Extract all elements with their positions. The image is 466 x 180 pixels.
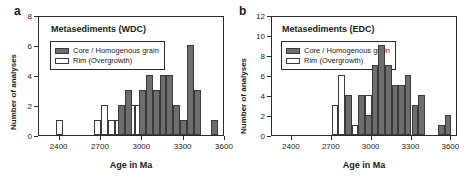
- y-axis-tick-label: 8: [247, 52, 265, 61]
- y-axis-tick-label: 2: [14, 102, 32, 111]
- legend-label-core: Core / Homogenous grain: [73, 46, 159, 55]
- y-axis-tick: [267, 136, 271, 137]
- x-axis-tick: [59, 136, 60, 140]
- x-axis-tick: [183, 136, 184, 140]
- legend-label-core: Core / Homogenous grain: [304, 46, 390, 55]
- y-axis-tick: [34, 16, 38, 17]
- histogram-bar: [56, 120, 63, 135]
- x-axis-tick-label: 2700: [91, 142, 109, 151]
- histogram-bar: [352, 125, 359, 135]
- x-axis-tick: [411, 136, 412, 140]
- histogram-bar: [398, 85, 405, 135]
- legend-label-rim: Rim (Overgrowth): [304, 56, 363, 65]
- x-axis-tick-label: 2400: [50, 142, 68, 151]
- histogram-bar: [160, 75, 167, 135]
- figure-histograms: a Number of analyses Age in Ma Metasedim…: [0, 0, 466, 180]
- histogram-bar: [139, 90, 146, 135]
- y-axis-tick: [267, 76, 271, 77]
- histogram-bar: [445, 115, 452, 135]
- y-axis-tick: [34, 106, 38, 107]
- legend-row-core: Core / Homogenous grain: [55, 46, 159, 55]
- y-axis-tick-label: 6: [14, 42, 32, 51]
- panel-a-bars: [39, 17, 223, 135]
- y-axis-tick: [34, 76, 38, 77]
- y-axis-tick-label: 6: [247, 72, 265, 81]
- panel-b-x-axis-title: Age in Ma: [271, 160, 457, 170]
- histogram-bar: [332, 105, 339, 135]
- x-axis-tick: [100, 136, 101, 140]
- y-axis-tick-label: 4: [247, 92, 265, 101]
- x-axis-tick-label: 3600: [441, 142, 459, 151]
- legend-swatch-core-icon: [55, 48, 69, 54]
- histogram-bar: [412, 105, 419, 135]
- y-axis-tick: [267, 96, 271, 97]
- histogram-bar: [418, 95, 425, 135]
- x-axis-tick-label: 3300: [402, 142, 420, 151]
- legend-label-rim: Rim (Overgrowth): [73, 56, 132, 65]
- legend-row-rim: Rim (Overgrowth): [286, 56, 390, 65]
- y-axis-tick: [34, 46, 38, 47]
- panel-a: a Number of analyses Age in Ma Metasedim…: [0, 0, 233, 180]
- y-axis-tick: [267, 36, 271, 37]
- histogram-bar: [180, 120, 187, 135]
- histogram-bar: [108, 120, 115, 135]
- histogram-bar: [385, 65, 392, 135]
- histogram-bar: [194, 90, 201, 135]
- histogram-bar: [378, 45, 385, 135]
- legend-row-rim: Rim (Overgrowth): [55, 56, 159, 65]
- y-axis-tick: [267, 116, 271, 117]
- histogram-bar: [187, 45, 194, 135]
- x-axis-tick-label: 3300: [174, 142, 192, 151]
- y-axis-tick-label: 4: [14, 72, 32, 81]
- x-axis-tick: [224, 136, 225, 140]
- y-axis-tick: [34, 136, 38, 137]
- x-axis-tick: [331, 136, 332, 140]
- panel-b-letter: b: [239, 4, 246, 18]
- panel-a-y-axis-title: Number of analyses: [9, 54, 18, 130]
- panel-a-plot-title: Metasediments (WDC): [51, 24, 146, 34]
- x-axis-tick: [141, 136, 142, 140]
- y-axis-tick-label: 12: [247, 12, 265, 21]
- histogram-bar: [153, 90, 160, 135]
- panel-b-plot-frame: Metasediments (EDC) Core / Homogenous gr…: [271, 16, 457, 136]
- histogram-bar: [372, 65, 379, 135]
- y-axis-tick: [267, 56, 271, 57]
- x-axis-tick: [450, 136, 451, 140]
- legend-swatch-rim-icon: [286, 58, 300, 64]
- x-axis-tick-label: 2400: [282, 142, 300, 151]
- histogram-bar: [365, 115, 372, 135]
- panel-b-plot-title: Metasediments (EDC): [282, 24, 375, 34]
- legend-swatch-core-icon: [286, 48, 300, 54]
- x-axis-tick-label: 3600: [215, 142, 233, 151]
- histogram-bar: [438, 125, 445, 135]
- panel-a-x-axis-title: Age in Ma: [38, 160, 224, 170]
- x-axis-tick: [371, 136, 372, 140]
- histogram-bar: [338, 75, 345, 135]
- y-axis-tick-label: 2: [247, 112, 265, 121]
- legend-swatch-rim-icon: [55, 58, 69, 64]
- x-axis-tick: [291, 136, 292, 140]
- x-axis-tick-label: 2700: [322, 142, 340, 151]
- y-axis-tick-label: 8: [14, 12, 32, 21]
- y-axis-tick: [267, 16, 271, 17]
- histogram-bar: [146, 75, 153, 135]
- histogram-bar: [118, 105, 125, 135]
- panel-b: b Number of analyses Age in Ma Metasedim…: [233, 0, 466, 180]
- panel-a-legend: Core / Homogenous grain Rim (Overgrowth): [50, 41, 165, 70]
- y-axis-tick-label: 0: [14, 132, 32, 141]
- histogram-bar: [392, 85, 399, 135]
- histogram-bar: [173, 105, 180, 135]
- histogram-bar: [405, 75, 412, 135]
- histogram-bar: [211, 120, 218, 135]
- x-axis-tick-label: 3000: [132, 142, 150, 151]
- histogram-bar: [101, 105, 108, 135]
- histogram-bar: [94, 120, 101, 135]
- histogram-bar: [358, 95, 365, 135]
- panel-a-plot-frame: Metasediments (WDC) Core / Homogenous gr…: [38, 16, 224, 136]
- histogram-bar: [166, 75, 173, 135]
- histogram-bar: [125, 90, 132, 135]
- histogram-bar: [345, 95, 352, 135]
- legend-row-core: Core / Homogenous grain: [286, 46, 390, 55]
- y-axis-tick-label: 10: [247, 32, 265, 41]
- y-axis-tick-label: 0: [247, 132, 265, 141]
